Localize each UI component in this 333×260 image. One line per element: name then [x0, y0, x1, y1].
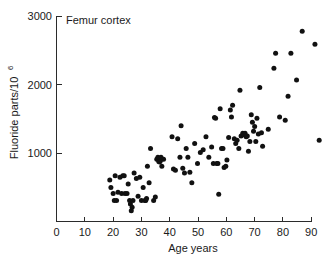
data-point [137, 175, 142, 180]
data-point [177, 155, 182, 160]
data-point [246, 149, 251, 154]
data-point [136, 194, 141, 199]
data-point [161, 157, 166, 162]
data-point [317, 138, 322, 143]
data-point [218, 106, 223, 111]
y-axis-title-superscript: 6 [6, 66, 15, 70]
data-point [130, 198, 135, 203]
x-tick-label-60: 60 [220, 226, 232, 238]
data-point [249, 112, 254, 117]
data-point [153, 195, 158, 200]
x-tick-label-70: 70 [248, 226, 260, 238]
x-axis-title: Age years [168, 242, 218, 254]
data-point [220, 146, 225, 151]
data-point [251, 129, 256, 134]
data-point [130, 205, 135, 210]
data-point [224, 158, 229, 163]
data-point [180, 166, 185, 171]
data-point [113, 173, 118, 178]
data-point [170, 134, 175, 139]
data-point [245, 134, 250, 139]
data-point [148, 146, 153, 151]
data-point [259, 130, 264, 135]
data-point [277, 114, 282, 119]
data-point [144, 196, 149, 201]
data-point [266, 127, 271, 132]
axes-group [57, 16, 311, 222]
y-tick-label-3000: 3000 [28, 10, 52, 22]
data-point [189, 180, 194, 185]
x-tick-label-20: 20 [107, 226, 119, 238]
data-point [226, 135, 231, 140]
data-point [223, 164, 228, 169]
y-tick-label-1000: 1000 [28, 147, 52, 159]
data-point [114, 198, 119, 203]
scatter-plot-figure: 1000200030000102030405060708090 Femur co… [0, 0, 333, 260]
y-axis-title: Fluoride parts/10 [8, 77, 20, 160]
x-tick-label-10: 10 [79, 226, 91, 238]
data-point [254, 116, 259, 121]
y-tick-label-2000: 2000 [28, 79, 52, 91]
x-tick-label-80: 80 [277, 226, 289, 238]
data-point [216, 192, 221, 197]
data-points-group [107, 29, 321, 213]
data-point [145, 164, 150, 169]
data-point [185, 155, 190, 160]
data-point [187, 170, 192, 175]
data-point [273, 51, 278, 56]
data-point [300, 29, 305, 34]
data-point [283, 118, 288, 123]
data-point [184, 146, 189, 151]
data-point [312, 42, 317, 47]
data-point [230, 103, 235, 108]
data-point [260, 144, 265, 149]
x-tick-label-0: 0 [53, 226, 59, 238]
data-point [141, 185, 146, 190]
data-point [271, 66, 276, 71]
data-point [213, 116, 218, 121]
data-point [132, 171, 137, 176]
plot-title: Femur cortex [66, 14, 131, 26]
data-point [111, 191, 116, 196]
data-point [107, 177, 112, 182]
data-point [247, 139, 252, 144]
data-point [229, 114, 234, 119]
data-point [236, 146, 241, 151]
data-point [125, 191, 130, 196]
ticks-group: 1000200030000102030405060708090 [28, 10, 318, 238]
data-point [252, 124, 257, 129]
y-axis-title-group: Fluoride parts/10 6 [6, 66, 20, 159]
data-point [209, 145, 214, 150]
data-point [182, 171, 187, 176]
data-point [175, 136, 180, 141]
data-point [147, 180, 152, 185]
data-point [288, 51, 293, 56]
data-point [201, 147, 206, 152]
x-tick-label-90: 90 [305, 226, 317, 238]
data-point [122, 173, 127, 178]
data-point [237, 88, 242, 93]
data-point [215, 161, 220, 166]
data-point [173, 168, 178, 173]
data-point [192, 141, 197, 146]
data-point [203, 134, 208, 139]
data-point [253, 139, 258, 144]
data-point [108, 185, 113, 190]
data-point [286, 94, 291, 99]
data-point [206, 155, 211, 160]
data-point [126, 182, 131, 187]
data-point [195, 161, 200, 166]
data-point [228, 108, 233, 113]
data-point [179, 123, 184, 128]
data-point [294, 77, 299, 82]
x-tick-label-50: 50 [192, 226, 204, 238]
x-tick-label-30: 30 [135, 226, 147, 238]
x-tick-label-40: 40 [164, 226, 176, 238]
data-point [159, 164, 164, 169]
data-point [235, 138, 240, 143]
chart-canvas: 1000200030000102030405060708090 Femur co… [0, 0, 333, 260]
data-point [257, 85, 262, 90]
